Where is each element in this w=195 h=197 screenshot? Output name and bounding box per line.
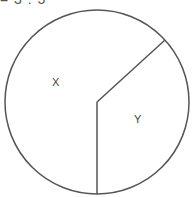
radius-line-upper-right: [97, 40, 165, 102]
pie-diagram: [0, 0, 195, 197]
slice-label-y: Y: [134, 113, 141, 125]
slice-label-x: X: [52, 76, 59, 88]
